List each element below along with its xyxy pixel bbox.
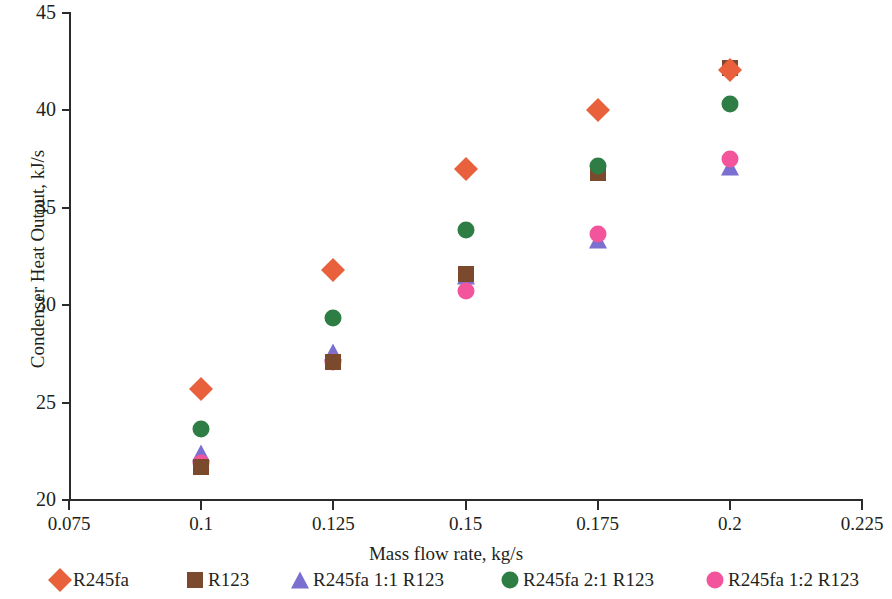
y-axis-title: Condenser Heat Output, kJ/s: [27, 39, 49, 479]
legend-marker-square-icon: [185, 570, 205, 590]
legend-label: R245fa: [73, 570, 129, 590]
x-tick-label: 0.15: [449, 513, 482, 535]
legend-item[interactable]: R245fa 2:1 R123: [500, 566, 654, 594]
data-point-diamond: [189, 377, 213, 401]
data-point-circle: [193, 420, 210, 437]
legend-marker-circle-icon: [500, 570, 520, 590]
x-tick-mark: [597, 501, 599, 510]
legend-item[interactable]: R245fa 1:1 R123: [290, 566, 444, 594]
x-tick-mark: [200, 501, 202, 510]
x-tick-mark: [729, 501, 731, 510]
scatter-chart: 202530354045 0.0750.10.1250.150.1750.20.…: [0, 0, 892, 599]
chart-legend: R245faR123R245fa 1:1 R123R245fa 2:1 R123…: [0, 566, 892, 596]
data-point-circle: [502, 572, 519, 589]
data-point-circle: [721, 95, 738, 112]
legend-marker-circle-icon: [705, 570, 725, 590]
data-point-diamond: [586, 98, 610, 122]
x-tick-label: 0.225: [841, 513, 884, 535]
legend-item[interactable]: R245fa: [50, 566, 129, 594]
data-point-circle: [721, 151, 738, 168]
data-point-circle: [589, 226, 606, 243]
legend-label: R245fa 1:2 R123: [728, 570, 859, 590]
x-tick-mark: [861, 501, 863, 510]
legend-label: R123: [208, 570, 249, 590]
x-tick-mark: [68, 501, 70, 510]
x-tick-label: 0.125: [312, 513, 355, 535]
data-point-circle: [707, 572, 724, 589]
plot-area: [69, 13, 862, 500]
data-point-triangle: [291, 572, 309, 589]
x-tick-mark: [465, 501, 467, 510]
data-point-square: [187, 572, 203, 588]
data-point-diamond: [48, 568, 72, 592]
legend-item[interactable]: R123: [185, 566, 249, 594]
data-point-square: [193, 459, 209, 475]
legend-label: R245fa 2:1 R123: [523, 570, 654, 590]
x-tick-label: 0.2: [718, 513, 742, 535]
legend-label: R245fa 1:1 R123: [313, 570, 444, 590]
data-point-square: [325, 354, 341, 370]
x-tick-label: 0.1: [189, 513, 213, 535]
data-point-circle: [457, 222, 474, 239]
legend-marker-diamond-icon: [50, 570, 70, 590]
y-axis-title-holder: Condenser Heat Output, kJ/s: [10, 0, 34, 500]
x-axis-title: Mass flow rate, kg/s: [0, 543, 892, 565]
x-tick-label: 0.075: [48, 513, 91, 535]
data-point-diamond: [453, 157, 477, 181]
data-point-diamond: [321, 258, 345, 282]
data-point-circle: [457, 282, 474, 299]
legend-marker-triangle-icon: [290, 570, 310, 590]
data-point-square: [458, 266, 474, 282]
legend-item[interactable]: R245fa 1:2 R123: [705, 566, 859, 594]
x-tick-mark: [332, 501, 334, 510]
x-tick-label: 0.175: [576, 513, 619, 535]
data-point-circle: [589, 157, 606, 174]
data-point-circle: [325, 309, 342, 326]
